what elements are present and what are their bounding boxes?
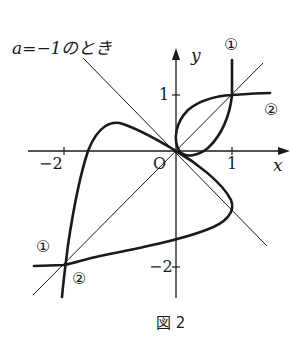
curve-2	[176, 60, 270, 155]
curve2-label-right: ②	[264, 102, 278, 118]
y-tick-label-1: 1	[159, 87, 169, 103]
y-tick-label-neg2: −2	[149, 259, 173, 275]
x-tick-label-1: 1	[227, 156, 237, 172]
figure-caption: 図 2	[156, 316, 185, 331]
curve2-label-bottom: ②	[72, 271, 86, 287]
x-axis-label: x	[273, 157, 283, 174]
y-axis-label: y	[191, 47, 201, 64]
x-axis-arrow-icon	[278, 147, 290, 155]
y-axis-arrow-icon	[172, 48, 180, 60]
line-y-equals-x	[33, 63, 263, 295]
curve1-label-bottom: ①	[36, 239, 50, 255]
annotation-a-equals-neg1: a=−1のとき	[12, 40, 112, 57]
curve1-label-top: ①	[224, 37, 238, 53]
origin-label: O	[153, 156, 166, 172]
x-tick-label-neg2: −2	[39, 156, 63, 172]
